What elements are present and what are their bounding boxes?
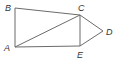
point-label-e: E (77, 50, 84, 60)
segment-bc (15, 8, 80, 15)
point-label-c: C (78, 3, 85, 13)
segment-ed (80, 31, 103, 46)
segment-cd (80, 15, 103, 31)
point-label-d: D (106, 27, 113, 37)
point-label-b: B (5, 3, 11, 13)
segment-ae (15, 46, 80, 47)
segment-ac (15, 15, 80, 47)
point-label-a: A (3, 43, 10, 53)
geometry-diagram: B C D A E (0, 0, 117, 60)
